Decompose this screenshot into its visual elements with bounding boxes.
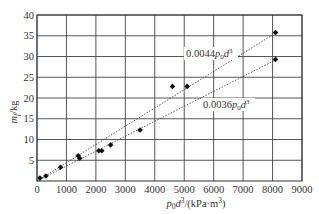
y-tick-label: 40: [24, 10, 35, 21]
annotation-fit-0044: 0.0044p0d3: [184, 47, 238, 61]
data-point-diamond: [184, 84, 190, 90]
y-tick-label: 20: [24, 93, 35, 104]
y-tick-label: 5: [29, 155, 34, 166]
x-tick-label: 8000: [262, 184, 283, 195]
data-point-diamond: [170, 84, 176, 90]
x-tick-label: 0: [34, 184, 39, 195]
y-tick-label: 25: [24, 72, 35, 83]
chart: 0100020003000400050006000700080009000 51…: [0, 0, 319, 214]
svg-text:0.0044p0d3: 0.0044p0d3: [186, 47, 233, 61]
x-tick-label: 6000: [203, 184, 224, 195]
x-tick-label: 9000: [292, 184, 313, 195]
y-tick-label: 15: [24, 113, 35, 124]
y-tick-labels: 510152025303540: [24, 10, 35, 166]
y-axis-label: mf/kg: [8, 100, 21, 124]
x-axis-label: p0d3/(kPa·m3): [165, 196, 226, 211]
svg-text:0.0036p0d3: 0.0036p0d3: [203, 98, 250, 112]
x-tick-label: 5000: [174, 184, 195, 195]
x-tick-label: 7000: [233, 184, 254, 195]
data-point-diamond: [99, 148, 105, 154]
x-tick-label: 4000: [144, 184, 165, 195]
x-tick-label: 1000: [56, 184, 77, 195]
y-tick-label: 35: [24, 30, 35, 41]
x-tick-label: 3000: [115, 184, 136, 195]
fit-line: [37, 60, 276, 181]
y-tick-label: 30: [24, 51, 35, 62]
x-tick-label: 2000: [85, 184, 106, 195]
annotation-fit-0036: 0.0036p0d3: [201, 98, 255, 112]
data-point-diamond: [273, 30, 279, 36]
y-tick-label: 10: [24, 134, 35, 145]
x-tick-labels: 0100020003000400050006000700080009000: [34, 184, 312, 195]
data-point-diamond: [58, 165, 64, 171]
